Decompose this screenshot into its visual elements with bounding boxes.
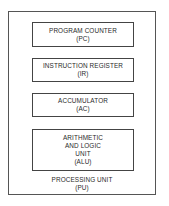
alu-label-line-1: ARITHMETIC: [63, 134, 103, 142]
alu-label-line-3: UNIT: [75, 150, 90, 158]
program-counter-abbrev: (PC): [76, 35, 90, 43]
alu-label-line-2: AND LOGIC: [65, 142, 101, 150]
alu-abbrev: (ALU): [74, 158, 91, 166]
accumulator-abbrev: (AC): [76, 105, 90, 113]
processing-unit-abbrev: (PU): [8, 184, 156, 192]
instruction-register-block: INSTRUCTION REGISTER (IR): [32, 58, 134, 82]
instruction-register-abbrev: (IR): [77, 70, 88, 78]
accumulator-block: ACCUMULATOR (AC): [32, 93, 134, 117]
program-counter-block: PROGRAM COUNTER (PC): [32, 22, 134, 47]
alu-block: ARITHMETIC AND LOGIC UNIT (ALU): [32, 129, 134, 171]
processing-unit-label: PROCESSING UNIT (PU): [8, 176, 156, 192]
instruction-register-label: INSTRUCTION REGISTER: [43, 62, 123, 70]
processing-unit-title: PROCESSING UNIT: [8, 176, 156, 184]
program-counter-label: PROGRAM COUNTER: [49, 27, 117, 35]
accumulator-label: ACCUMULATOR: [58, 97, 108, 105]
